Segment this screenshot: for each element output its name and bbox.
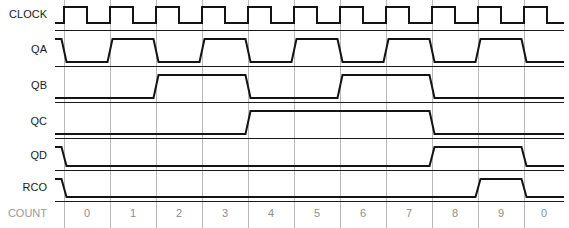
count-value-6: 6	[360, 207, 366, 219]
count-value-1: 1	[130, 207, 136, 219]
signal-label-clock: CLOCK	[9, 8, 48, 20]
count-value-4: 4	[268, 207, 274, 219]
count-row-label: COUNT	[8, 207, 47, 219]
count-value-7: 7	[406, 207, 412, 219]
count-value-2: 2	[176, 207, 182, 219]
signal-label-qb: QB	[31, 79, 47, 91]
signal-label-qa: QA	[31, 43, 48, 55]
diagram-background	[0, 0, 569, 228]
signal-label-qd: QD	[31, 149, 48, 161]
timing-diagram-svg: CLOCKQAQBQCQDRCOCOUNT 01234567890	[0, 0, 569, 228]
timing-diagram-root: CLOCKQAQBQCQDRCOCOUNT 01234567890	[0, 0, 569, 228]
count-value-10: 0	[541, 207, 547, 219]
count-value-5: 5	[314, 207, 320, 219]
count-value-8: 8	[452, 207, 458, 219]
signal-label-qc: QC	[31, 115, 48, 127]
count-value-3: 3	[222, 207, 228, 219]
count-value-9: 9	[498, 207, 504, 219]
signal-label-rco: RCO	[23, 181, 48, 193]
count-value-0: 0	[84, 207, 90, 219]
